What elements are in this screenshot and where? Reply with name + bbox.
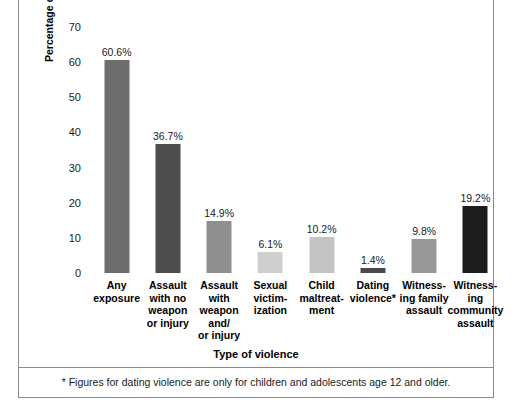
- category-label-line: weapon: [191, 304, 247, 317]
- category-label-line: Child: [294, 279, 350, 292]
- y-axis-tick-label: 20: [69, 197, 81, 209]
- category-label-line: ing: [447, 292, 503, 305]
- bar[interactable]: [258, 252, 283, 273]
- y-axis-tick-label: 30: [69, 162, 81, 174]
- chart-frame: Percentage of children exposed 010203040…: [18, 0, 494, 398]
- category-label-line: ment: [294, 304, 350, 317]
- y-axis-tick-label: 40: [69, 126, 81, 138]
- x-axis-category-label: Anyexposure: [89, 279, 145, 304]
- category-label-line: with no: [140, 292, 196, 305]
- x-axis-category-label: Assaultwithweaponand/or injury: [191, 279, 247, 342]
- category-label-line: weapon: [140, 304, 196, 317]
- x-axis-category-label: Witness-ing familyassault: [396, 279, 452, 317]
- bar-slot: 6.1%: [246, 27, 294, 273]
- category-label-line: Witness-: [447, 279, 503, 292]
- bar-value-label: 60.6%: [102, 46, 132, 58]
- bar-slot: 19.2%: [451, 27, 499, 273]
- category-label-line: Witness-: [396, 279, 452, 292]
- bar-value-label: 10.2%: [307, 223, 337, 235]
- x-axis-category-label: Assaultwith noweaponor injury: [140, 279, 196, 329]
- x-axis-title: Type of violence: [19, 348, 493, 360]
- bar-slot: 10.2%: [298, 27, 346, 273]
- y-axis-title: Percentage of children exposed: [43, 0, 55, 62]
- bar-slot: 36.7%: [144, 27, 192, 273]
- bar[interactable]: [360, 268, 385, 273]
- bar[interactable]: [412, 239, 437, 273]
- plot-area: 010203040506070 60.6%36.7%14.9%6.1%10.2%…: [91, 27, 501, 273]
- y-axis-tick-label: 60: [69, 56, 81, 68]
- bar[interactable]: [104, 60, 129, 273]
- y-axis-tick-label: 70: [69, 21, 81, 33]
- bar-slot: 9.8%: [400, 27, 448, 273]
- category-label-line: community: [447, 304, 503, 317]
- bar[interactable]: [309, 237, 334, 273]
- category-label-line: with: [191, 292, 247, 305]
- category-label-line: Assault: [191, 279, 247, 292]
- bar-slot: 60.6%: [93, 27, 141, 273]
- bar-value-label: 6.1%: [258, 238, 282, 250]
- category-label-line: Dating: [345, 279, 401, 292]
- category-label-line: victim-: [242, 292, 298, 305]
- category-label-line: violence*: [345, 292, 401, 305]
- category-label-line: assault: [396, 304, 452, 317]
- x-axis-category-label: Witness-ingcommunityassault: [447, 279, 503, 329]
- category-label-line: or injury: [191, 329, 247, 342]
- x-axis-category-label: Datingviolence*: [345, 279, 401, 304]
- bar-value-label: 1.4%: [361, 254, 385, 266]
- bar-value-label: 19.2%: [460, 192, 490, 204]
- bar-value-label: 36.7%: [153, 130, 183, 142]
- category-label-line: ization: [242, 304, 298, 317]
- y-axis-tick-label: 10: [69, 232, 81, 244]
- category-label-line: assault: [447, 317, 503, 330]
- category-label-line: and/: [191, 317, 247, 330]
- y-axis-tick-label: 50: [69, 91, 81, 103]
- x-axis-category-label: Sexualvictim-ization: [242, 279, 298, 317]
- bar-value-label: 14.9%: [204, 207, 234, 219]
- y-axis-tick-label: 0: [75, 267, 81, 279]
- category-label-line: Sexual: [242, 279, 298, 292]
- category-label-line: ing family: [396, 292, 452, 305]
- category-label-line: Assault: [140, 279, 196, 292]
- bar[interactable]: [155, 144, 180, 273]
- category-label-line: maltreat-: [294, 292, 350, 305]
- category-label-line: or injury: [140, 317, 196, 330]
- chart-figure: Percentage of children exposed 010203040…: [0, 0, 517, 409]
- category-label-line: Any: [89, 279, 145, 292]
- category-label-line: exposure: [89, 292, 145, 305]
- bar-value-label: 9.8%: [412, 225, 436, 237]
- bar[interactable]: [463, 206, 488, 273]
- bar[interactable]: [207, 221, 232, 273]
- footnote-divider: [19, 367, 493, 368]
- y-axis-title-container: Percentage of children exposed: [45, 0, 63, 280]
- x-axis-category-label: Childmaltreat-ment: [294, 279, 350, 317]
- footnote-text: * Figures for dating violence are only f…: [19, 376, 493, 388]
- bar-slot: 14.9%: [195, 27, 243, 273]
- bar-slot: 1.4%: [349, 27, 397, 273]
